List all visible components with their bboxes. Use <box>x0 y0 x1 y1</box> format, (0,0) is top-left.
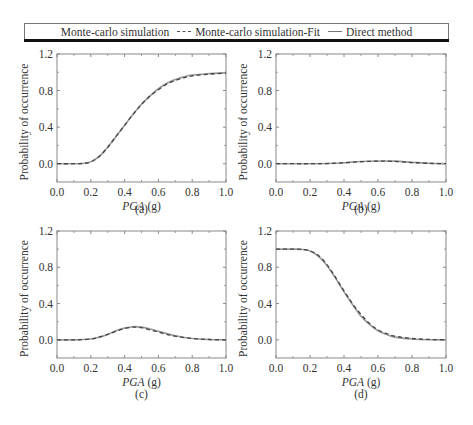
x-tick-label: 0.4 <box>337 362 352 374</box>
y-tick-label: 0.0 <box>39 158 54 170</box>
x-tick-label: 0.2 <box>303 186 318 198</box>
chart-panel-c: 0.00.20.40.60.81.00.00.40.81.2PGA (g)Pro… <box>18 225 233 401</box>
y-tick-label: 1.2 <box>39 225 54 237</box>
y-tick-label: 1.2 <box>258 225 273 237</box>
y-axis-label: Probability of occurrence <box>237 64 250 181</box>
x-tick-label: 1.0 <box>219 362 234 374</box>
panel-label: (c) <box>135 388 148 401</box>
y-tick-label: 1.2 <box>39 48 54 60</box>
x-tick-label: 0.6 <box>371 186 386 198</box>
y-tick-label: 0.8 <box>258 261 273 273</box>
chart-panel-b: 0.00.20.40.60.81.00.00.40.81.2PGA (g)Pro… <box>237 48 453 216</box>
y-axis-label: Probability of occurrence <box>237 240 250 357</box>
y-axis-label: Probability of occurrence <box>18 64 31 181</box>
x-tick-label: 0.4 <box>117 186 132 198</box>
series-direct-method <box>276 249 446 340</box>
y-tick-label: 0.4 <box>258 121 273 133</box>
chart-panel-d: 0.00.20.40.60.81.00.00.40.81.2PGA (g)Pro… <box>237 225 453 401</box>
series-monte-carlo-fit <box>57 327 226 340</box>
series-direct-method <box>57 327 226 340</box>
y-tick-label: 0.4 <box>39 121 54 133</box>
x-tick-label: 0.2 <box>84 362 99 374</box>
x-tick-label: 1.0 <box>439 186 454 198</box>
y-tick-label: 1.2 <box>258 48 273 60</box>
x-tick-label: 1.0 <box>219 186 234 198</box>
y-tick-label: 0.0 <box>39 334 54 346</box>
x-tick-label: 0.0 <box>269 362 284 374</box>
x-tick-label: 0.6 <box>151 186 166 198</box>
x-tick-label: 0.8 <box>185 362 200 374</box>
x-tick-label: 0.0 <box>269 186 284 198</box>
x-tick-label: 0.4 <box>117 362 132 374</box>
y-axis-label: Probability of occurrence <box>18 240 31 357</box>
x-tick-label: 0.2 <box>84 186 99 198</box>
y-tick-label: 0.0 <box>258 158 273 170</box>
series-direct-method <box>57 73 226 164</box>
y-tick-label: 0.8 <box>39 85 54 97</box>
y-tick-label: 0.8 <box>39 261 54 273</box>
y-tick-label: 0.0 <box>258 334 273 346</box>
x-tick-label: 0.8 <box>185 186 200 198</box>
series-monte-carlo-fit <box>57 73 226 164</box>
x-tick-label: 0.2 <box>303 362 318 374</box>
x-tick-label: 0.6 <box>371 362 386 374</box>
x-tick-label: 0.0 <box>50 362 65 374</box>
x-tick-label: 0.8 <box>405 186 420 198</box>
x-tick-label: 1.0 <box>439 362 454 374</box>
x-tick-label: 0.0 <box>50 186 65 198</box>
panel-label: (a) <box>135 203 148 216</box>
chart-panel-a: 0.00.20.40.60.81.00.00.40.81.2PGA (g)Pro… <box>18 48 233 216</box>
y-tick-label: 0.4 <box>39 298 54 310</box>
charts-canvas: 0.00.20.40.60.81.00.00.40.81.2PGA (g)Pro… <box>0 0 473 425</box>
series-monte-carlo-fit <box>276 249 446 340</box>
y-tick-label: 0.4 <box>258 298 273 310</box>
panel-label: (b) <box>354 203 368 216</box>
x-tick-label: 0.8 <box>405 362 420 374</box>
x-tick-label: 0.4 <box>337 186 352 198</box>
x-tick-label: 0.6 <box>151 362 166 374</box>
y-tick-label: 0.8 <box>258 85 273 97</box>
panel-label: (d) <box>354 388 368 401</box>
